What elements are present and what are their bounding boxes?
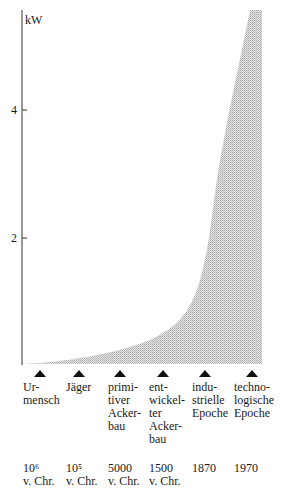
epoch-label-jaeger: Jäger (66, 381, 91, 394)
marker-triangle (34, 370, 46, 377)
epoch-label-entwickelter-ackerbau: ent- wickel- ter Acker- bau (149, 381, 185, 446)
date-label-2: 5000 v. Chr. (108, 462, 140, 488)
epoch-label-industrielle-epoche: indu- strielle Epoche (192, 381, 228, 420)
marker-triangle (114, 370, 126, 377)
epoch-label-urmensch: Ur- mensch (23, 381, 60, 407)
y-tick-label-2: 2 (11, 232, 17, 244)
epoch-label-technologische-epoche: techno- logische Epoche (234, 381, 274, 420)
date-label-4: 1870 (192, 462, 216, 475)
marker-triangle (73, 370, 85, 377)
area-fill (23, 10, 262, 364)
epoch-label-primitiver-ackerbau: primi- tiver Acker- bau (108, 381, 141, 433)
date-label-5: 1970 (234, 462, 258, 475)
marker-triangle (246, 370, 258, 377)
marker-triangle (157, 370, 169, 377)
y-tick-label-4: 4 (11, 104, 17, 116)
date-label-1: 10⁵ v. Chr. (66, 462, 98, 488)
energy-chart (0, 0, 286, 380)
y-axis-unit-label: kW (25, 13, 42, 28)
date-label-0: 10⁶ v. Chr. (23, 462, 55, 488)
date-label-3: 1500 v. Chr. (149, 462, 181, 488)
marker-triangle (199, 370, 211, 377)
